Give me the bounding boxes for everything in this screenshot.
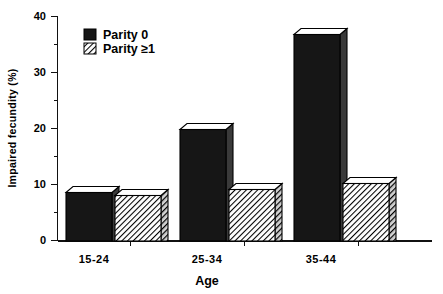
bar-parity-1-35-44[interactable] — [343, 178, 396, 242]
bar-parity-0-15-24[interactable] — [66, 187, 119, 242]
bar-parity-0-25-34[interactable] — [180, 124, 233, 242]
legend-swatch-parity-1 — [84, 43, 96, 54]
x-axis-title: Age — [195, 274, 219, 288]
x-tick-label-15-24: 15-24 — [79, 253, 110, 265]
bar-parity-1-15-24[interactable] — [115, 190, 168, 242]
y-tick-label-10: 10 — [34, 178, 46, 190]
y-tick-label-0: 0 — [40, 234, 46, 246]
y-tick-label-20: 20 — [34, 122, 46, 134]
y-tick-label-30: 30 — [34, 66, 46, 78]
y-tick-label-40: 40 — [34, 10, 46, 22]
bar-parity-0-35-44[interactable] — [294, 29, 347, 242]
legend-label-parity-0: Parity 0 — [103, 28, 148, 42]
bar-parity-1-25-34[interactable] — [229, 184, 282, 242]
legend-label-parity-1: Parity ≥1 — [103, 42, 155, 56]
legend-swatch-parity-0 — [84, 29, 96, 40]
bar-group-15-24 — [66, 187, 168, 242]
y-axis-title: Impaired fecundity (%) — [6, 68, 18, 187]
x-tick-label-35-44: 35-44 — [306, 253, 337, 265]
bar-chart: 40 30 20 10 0 Impaired fecundity (%) 15-… — [0, 0, 443, 294]
x-tick-label-25-34: 25-34 — [192, 253, 223, 265]
chart-canvas: 40 30 20 10 0 Impaired fecundity (%) 15-… — [0, 0, 443, 294]
